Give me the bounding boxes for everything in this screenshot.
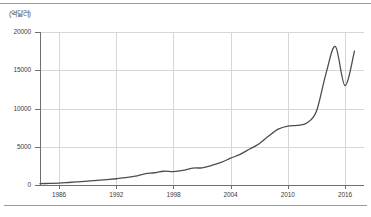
gridline-vertical bbox=[59, 32, 60, 185]
y-tick-mark bbox=[35, 32, 40, 33]
gridline-vertical bbox=[116, 32, 117, 185]
y-tick-label: 0 bbox=[27, 181, 31, 188]
gridline-horizontal bbox=[40, 109, 364, 110]
y-tick-mark bbox=[35, 147, 40, 148]
gridline-vertical bbox=[288, 32, 289, 185]
top-divider bbox=[0, 3, 371, 4]
y-tick-mark bbox=[35, 70, 40, 71]
y-axis-line bbox=[40, 32, 41, 186]
x-tick-label: 2004 bbox=[224, 191, 238, 198]
y-axis-unit-label: (억달러) bbox=[9, 8, 31, 18]
x-tick-mark bbox=[116, 185, 117, 189]
chart-figure: (억달러) 05000100001500020000 1986199219982… bbox=[0, 0, 371, 217]
x-tick-label: 2010 bbox=[281, 191, 295, 198]
bottom-divider bbox=[4, 205, 367, 206]
y-tick-mark bbox=[35, 185, 40, 186]
x-tick-mark bbox=[173, 185, 174, 189]
x-axis-line bbox=[40, 185, 364, 186]
gridline-horizontal bbox=[40, 147, 364, 148]
y-tick-label: 10000 bbox=[13, 105, 31, 112]
x-tick-label: 1986 bbox=[52, 191, 66, 198]
gridline-vertical bbox=[173, 32, 174, 185]
x-tick-mark bbox=[288, 185, 289, 189]
x-tick-mark bbox=[59, 185, 60, 189]
x-tick-label: 2016 bbox=[338, 191, 352, 198]
y-tick-label: 15000 bbox=[13, 66, 31, 73]
plot-area bbox=[40, 32, 364, 185]
x-tick-label: 1998 bbox=[166, 191, 180, 198]
y-tick-mark bbox=[35, 109, 40, 110]
y-tick-label: 20000 bbox=[13, 28, 31, 35]
x-tick-label: 1992 bbox=[109, 191, 123, 198]
y-tick-label: 5000 bbox=[17, 143, 31, 150]
gridline-vertical bbox=[231, 32, 232, 185]
gridline-vertical bbox=[345, 32, 346, 185]
x-tick-mark bbox=[345, 185, 346, 189]
gridline-horizontal bbox=[40, 70, 364, 71]
gridline-horizontal bbox=[40, 32, 364, 33]
x-tick-mark bbox=[231, 185, 232, 189]
